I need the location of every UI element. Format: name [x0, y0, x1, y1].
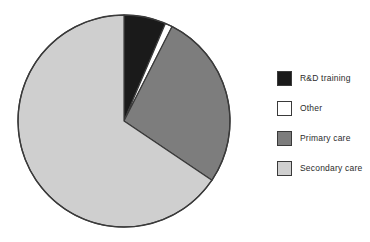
chart-legend: R&D training Other Primary care Secondar… [277, 63, 370, 183]
pie-slice-group [18, 15, 230, 227]
legend-swatch-other [277, 101, 292, 116]
legend-label-other: Other [300, 103, 322, 114]
legend-label-primary-care: Primary care [300, 133, 351, 144]
legend-item-rd-training[interactable]: R&D training [277, 63, 370, 93]
legend-swatch-secondary-care [277, 161, 292, 176]
legend-item-other[interactable]: Other [277, 93, 370, 123]
pie-chart-plot-area [0, 0, 250, 242]
legend-item-primary-care[interactable]: Primary care [277, 123, 370, 153]
legend-label-rd-training: R&D training [300, 73, 351, 84]
legend-label-secondary-care: Secondary care [300, 163, 362, 174]
pie-chart-figure: R&D training Other Primary care Secondar… [0, 0, 370, 242]
legend-swatch-primary-care [277, 131, 292, 146]
pie-chart-svg [0, 0, 250, 242]
legend-swatch-rd-training [277, 71, 292, 86]
legend-item-secondary-care[interactable]: Secondary care [277, 153, 370, 183]
